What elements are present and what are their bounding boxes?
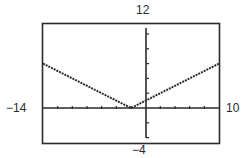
graph-canvas [0,0,244,158]
plot-frame [43,24,220,144]
axes [43,28,219,138]
function-curve [43,64,219,108]
